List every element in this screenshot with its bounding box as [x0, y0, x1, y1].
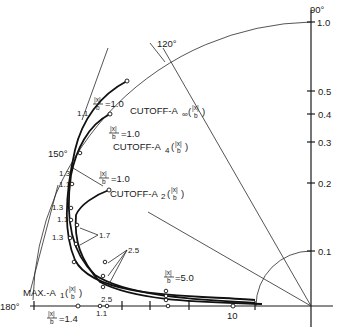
label-1-1: 1.1	[57, 215, 69, 224]
svg-text:b: b	[71, 293, 75, 300]
curve-cutoff-4	[69, 114, 255, 303]
tick-10: 10	[227, 310, 238, 321]
label-cutoff-2: |x| b =1.0 CUTOFF-A 2 ( |x| b )	[99, 170, 184, 201]
svg-text:=1.0: =1.0	[121, 128, 140, 139]
small-arc	[256, 251, 311, 306]
svg-text:|x|: |x|	[165, 269, 172, 277]
svg-text:b: b	[96, 104, 100, 111]
angle-150-label: 150°	[48, 148, 68, 159]
svg-text:b: b	[173, 194, 177, 201]
svg-text:|x|: |x|	[69, 285, 76, 293]
label-cutoff-4: |x| b =1.0 CUTOFF-A 4 ( |x| b )	[109, 125, 188, 155]
svg-text:): )	[79, 287, 82, 298]
svg-text:|x|: |x|	[48, 310, 55, 318]
label-axis-1-1: 1.1	[96, 309, 108, 318]
ray-cutoff2-leader	[148, 212, 311, 306]
svg-text:): )	[181, 188, 184, 199]
svg-text:): )	[202, 106, 205, 117]
svg-text:b: b	[112, 133, 116, 140]
polar-diagram: 90° 120° 150° 180° 1.0 0.5 0.4 0.3 0.2 0…	[0, 0, 343, 327]
svg-text:MAX.-A: MAX.-A	[23, 287, 56, 298]
label-2-5: 2.5	[128, 246, 140, 255]
svg-text:b: b	[50, 318, 54, 325]
tick-1-0: 1.0	[317, 17, 330, 28]
label-1-1: 1.1	[77, 109, 89, 118]
svg-text:b: b	[102, 178, 106, 185]
label-5-0: |x| b =5.0	[164, 269, 194, 284]
svg-text:CUTOFF-A: CUTOFF-A	[113, 141, 162, 152]
angle-120-label: 120°	[157, 38, 177, 49]
label-1-3: 1.3	[52, 233, 64, 242]
svg-text:4: 4	[165, 146, 170, 155]
svg-text:=5.0: =5.0	[175, 272, 194, 283]
svg-text:b: b	[177, 147, 181, 154]
angle-180-label: 180°	[0, 301, 20, 312]
svg-text:CUTOFF-A: CUTOFF-A	[130, 105, 179, 116]
svg-text:=1.0: =1.0	[105, 98, 124, 109]
angle-90-label: 90°	[310, 4, 325, 15]
svg-text:|x|: |x|	[110, 125, 117, 133]
label-1-7: 1.7	[99, 231, 111, 240]
svg-text:|x|: |x|	[171, 186, 178, 194]
svg-text:b: b	[194, 112, 198, 119]
svg-text:b: b	[167, 277, 171, 284]
label-max-1: MAX.-A 1 ( |x| b ) |x| b =1.4	[23, 285, 82, 325]
tick-0-4: 0.4	[318, 109, 331, 120]
label-1-1: 1.1	[59, 180, 71, 189]
svg-text:|x|: |x|	[94, 96, 101, 104]
svg-text:=1.0: =1.0	[111, 173, 130, 184]
tick-0-3: 0.3	[318, 137, 331, 148]
label-1-3: 1.3	[59, 169, 71, 178]
svg-text:2: 2	[161, 192, 166, 201]
svg-text:=1.4: =1.4	[59, 313, 78, 324]
svg-text:CUTOFF-A: CUTOFF-A	[110, 188, 159, 199]
tick-0-1: 0.1	[318, 246, 331, 257]
svg-text:|x|: |x|	[192, 104, 199, 112]
tick-0-2: 0.2	[318, 178, 331, 189]
tick-0-5: 0.5	[318, 86, 331, 97]
svg-text:): )	[185, 141, 188, 152]
label-1-3: 1.3	[52, 203, 64, 212]
label-axis-2-5: 2.5	[101, 295, 113, 304]
ray-120	[163, 48, 311, 306]
svg-text:|x|: |x|	[100, 170, 107, 178]
